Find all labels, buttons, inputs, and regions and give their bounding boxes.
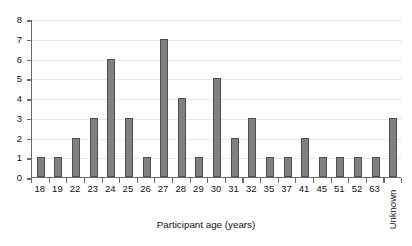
bar xyxy=(37,157,45,177)
bar xyxy=(90,118,98,177)
x-axis-title: Participant age (years) xyxy=(0,219,412,230)
bar xyxy=(125,118,133,177)
bar xyxy=(213,78,221,177)
bar xyxy=(72,138,80,178)
bar xyxy=(372,157,380,177)
y-tick-label-3: 3 xyxy=(2,114,22,124)
y-tick-label-4: 4 xyxy=(2,94,22,104)
bar xyxy=(160,39,168,177)
bar xyxy=(266,157,274,177)
bar xyxy=(107,59,115,178)
bar xyxy=(178,98,186,177)
y-tick-label-1: 1 xyxy=(2,153,22,163)
bar xyxy=(231,138,239,178)
gridline-8 xyxy=(32,20,402,21)
y-tick-label-2: 2 xyxy=(2,134,22,144)
bar xyxy=(195,157,203,177)
bar xyxy=(143,157,151,177)
y-tick-label-5: 5 xyxy=(2,74,22,84)
y-tick-label-6: 6 xyxy=(2,55,22,65)
bar xyxy=(284,157,292,177)
bar xyxy=(248,118,256,177)
bar-chart-figure: 012345678 181922232425262728293031323537… xyxy=(0,0,412,246)
bar xyxy=(319,157,327,177)
plot-area xyxy=(31,20,401,178)
bar xyxy=(301,138,309,178)
bar xyxy=(336,157,344,177)
y-tick-label-8: 8 xyxy=(2,15,22,25)
gridline-7 xyxy=(32,40,402,41)
bar xyxy=(354,157,362,177)
x-tick-mark xyxy=(401,178,402,183)
x-tick-label-63: 63 xyxy=(364,183,386,194)
bar xyxy=(389,118,397,177)
y-tick-label-7: 7 xyxy=(2,35,22,45)
y-tick-label-0: 0 xyxy=(2,173,22,183)
bar xyxy=(54,157,62,177)
gridline-6 xyxy=(32,60,402,61)
